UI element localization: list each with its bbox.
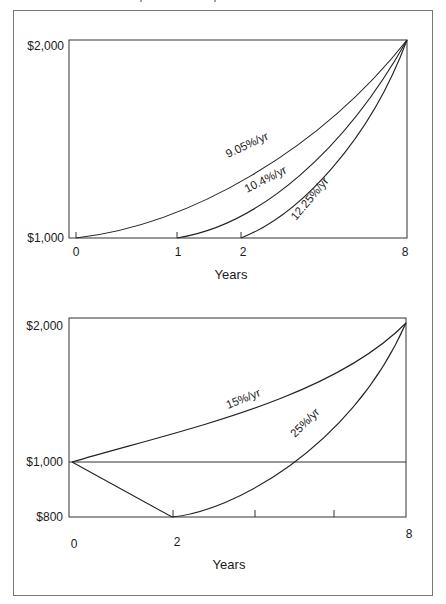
- top-x-label-2: 2: [240, 245, 247, 259]
- top-x-ticks: [76, 232, 241, 238]
- curve-15: [72, 323, 406, 462]
- top-x-axis-title: Years: [215, 267, 248, 282]
- cropped-title-marks: [141, 0, 215, 2]
- top-y-label-1000: $1,000: [27, 231, 64, 245]
- bottom-chart: 15%/yr 25%/yr $2,000 $1,000 $800 0 2 8 Y…: [26, 318, 412, 572]
- label-9-05: 9.05%/yr: [224, 130, 270, 160]
- curve-25: [72, 323, 406, 517]
- bottom-y-label-1000: $1,000: [26, 455, 63, 469]
- curve-9-05: [76, 40, 407, 238]
- bottom-plot-area: [69, 318, 406, 517]
- curve-10-4: [177, 40, 407, 238]
- label-12-25: 12.25%/yr: [288, 175, 331, 223]
- bottom-x-label-8: 8: [406, 527, 413, 541]
- bottom-x-ticks: [173, 510, 334, 517]
- top-x-label-1: 1: [175, 245, 182, 259]
- bottom-x-label-0: 0: [71, 537, 78, 551]
- bottom-x-label-2: 2: [174, 535, 181, 549]
- top-y-label-2000: $2,000: [27, 39, 64, 53]
- charts-canvas: 9.05%/yr 10.4%/yr 12.25%/yr $2,000 $1,00…: [0, 0, 446, 604]
- top-x-label-0: 0: [73, 245, 80, 259]
- bottom-y-label-2000: $2,000: [26, 319, 63, 333]
- label-25: 25%/yr: [288, 406, 322, 440]
- bottom-x-axis-title: Years: [213, 557, 246, 572]
- top-x-label-8: 8: [402, 245, 409, 259]
- bottom-y-label-800: $800: [36, 510, 63, 524]
- top-plot-area: [69, 40, 407, 238]
- top-chart: 9.05%/yr 10.4%/yr 12.25%/yr $2,000 $1,00…: [27, 39, 408, 282]
